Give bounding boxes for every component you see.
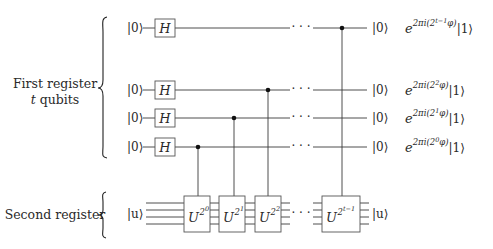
- svg-text:e2πi(22φ)|1⟩: e2πi(22φ)|1⟩: [405, 79, 465, 98]
- controlled-u-gate-2-t-minus-1: U2t−1: [322, 196, 360, 232]
- control-dot-row1: [340, 26, 345, 31]
- hadamard-gate-row2: H: [155, 81, 175, 99]
- hadamard-gate-row4: H: [155, 138, 175, 156]
- second-register-label: Second register: [5, 207, 106, 222]
- row1-input-ket: |0⟩: [127, 21, 143, 35]
- svg-text:H: H: [158, 21, 171, 36]
- qpe-circuit-diagram: First register t qubits Second register …: [0, 0, 493, 249]
- second-register-ellipsis: · · ·: [291, 206, 310, 220]
- first-register-label-line1: First register: [13, 76, 97, 91]
- row2-output-ket: |0⟩: [372, 83, 388, 97]
- row2-phase-expression: e2πi(22φ)|1⟩: [405, 79, 465, 98]
- first-register-label-line2: t qubits: [31, 92, 80, 107]
- svg-text:H: H: [158, 140, 171, 155]
- control-dot-row4: [196, 145, 201, 150]
- row2-input-ket: |0⟩: [127, 83, 143, 97]
- first-register-brace: [98, 17, 107, 158]
- control-dot-row2: [266, 88, 271, 93]
- hadamard-gate-row3: H: [155, 109, 175, 127]
- hadamard-gate-row1: H: [155, 19, 175, 37]
- svg-text:H: H: [158, 83, 171, 98]
- controlled-u-gate-2-0: U20: [184, 196, 210, 232]
- row4-ellipsis: · · ·: [291, 139, 310, 153]
- row4-input-ket: |0⟩: [127, 140, 143, 154]
- row1-ellipsis: · · ·: [291, 20, 310, 34]
- first-register-wires: [143, 28, 367, 147]
- svg-text:e2πi(21φ)|1⟩: e2πi(21φ)|1⟩: [405, 107, 465, 126]
- svg-text:e2πi(20φ)|1⟩: e2πi(20φ)|1⟩: [405, 136, 465, 155]
- row3-output-ket: |0⟩: [372, 111, 388, 125]
- svg-text:H: H: [158, 111, 171, 126]
- row3-input-ket: |0⟩: [127, 111, 143, 125]
- second-register-input-ket: |u⟩: [127, 207, 143, 221]
- row4-output-ket: |0⟩: [372, 140, 388, 154]
- row4-phase-expression: e2πi(20φ)|1⟩: [405, 136, 465, 155]
- controlled-u-gate-2-2: U22: [255, 196, 281, 232]
- control-lines: [198, 28, 342, 196]
- row3-ellipsis: · · ·: [291, 110, 310, 124]
- row3-phase-expression: e2πi(21φ)|1⟩: [405, 107, 465, 126]
- row1-output-ket: |0⟩: [372, 21, 388, 35]
- controlled-u-gate-2-1: U21: [219, 196, 245, 232]
- control-dot-row3: [232, 116, 237, 121]
- second-register-output-ket: |u⟩: [372, 207, 388, 221]
- row1-phase-expression: e2πi(2t−1φ)|1⟩: [405, 17, 473, 36]
- row2-ellipsis: · · ·: [291, 82, 310, 96]
- first-register-label: First register t qubits: [13, 76, 97, 107]
- svg-text:e2πi(2t−1φ)|1⟩: e2πi(2t−1φ)|1⟩: [405, 17, 473, 36]
